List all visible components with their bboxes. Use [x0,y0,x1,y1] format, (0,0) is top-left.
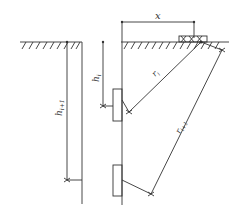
ray-r-i-plus-1 [122,42,225,196]
ground-surface-right [121,42,229,49]
label-x: x [155,10,161,21]
dimension-h-i-plus-1 [64,41,82,182]
label-h-i: hi [91,74,102,82]
receiver-upper [113,89,122,121]
diagram-canvas: hi+1 x hi [0,0,238,214]
label-r-i: ri [150,68,161,79]
label-h-i-plus-1: hi+1 [54,99,65,116]
ray-r-i [122,42,201,114]
ground-surface-left [20,42,82,49]
dimension-x [121,21,195,38]
receiver-lower [113,165,122,196]
